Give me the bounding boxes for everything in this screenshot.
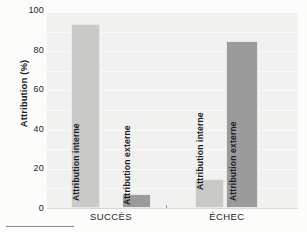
bar-label: Attribution interne [195, 112, 205, 190]
y-tick-label: 60 [14, 84, 44, 94]
y-axis-tick-labels: 100 80 60 40 20 0 [14, 10, 44, 208]
x-tick-label-echec: ÉCHEC [209, 211, 244, 222]
y-tick-label: 20 [14, 163, 44, 173]
bar-succes-externe[interactable]: Attribution externe [122, 194, 151, 208]
bar-succes-interne[interactable]: Attribution interne [71, 24, 100, 208]
bar-echec-interne[interactable]: Attribution interne [195, 179, 224, 208]
bar-label: Attribution interne [71, 123, 81, 201]
y-tick-label: 100 [14, 5, 44, 15]
bars-layer: Attribution interne Attribution externe … [47, 12, 298, 208]
figure-bottom-rule [6, 226, 74, 227]
plot-area: Attribution interne Attribution externe … [47, 12, 298, 208]
y-tick-label: 80 [14, 45, 44, 55]
bar-chart-figure: Attribution (%) 100 80 60 40 20 0 Attrib… [0, 0, 307, 232]
x-axis-group-separator-tick [166, 205, 167, 208]
bar-label: Attribution externe [122, 126, 132, 206]
x-tick-label-succes: SUCCÈS [90, 211, 132, 222]
y-tick-label: 0 [14, 203, 44, 213]
bar-echec-externe[interactable]: Attribution externe [226, 41, 258, 208]
x-axis-tick-labels: SUCCÈS ÉCHEC [47, 211, 298, 227]
bar-label: Attribution externe [228, 121, 238, 201]
y-tick-label: 40 [14, 124, 44, 134]
x-axis-line [47, 208, 298, 209]
